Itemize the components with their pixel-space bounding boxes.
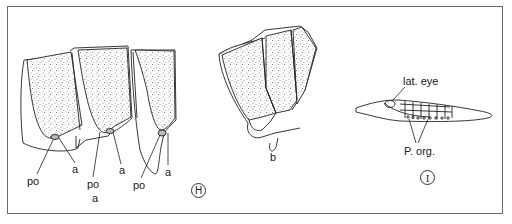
sublabel-b: b: [270, 152, 276, 163]
label-p-org: P. org.: [404, 146, 435, 157]
organism-lateral-view: [356, 100, 492, 122]
panel-label-h: H: [191, 183, 206, 198]
label-a-2: a: [119, 165, 125, 176]
leader-lines-i: [392, 87, 428, 143]
segment-series-b: [219, 26, 317, 151]
label-a-1: a: [72, 164, 78, 175]
label-a-3: a: [165, 167, 171, 178]
sublabel-a: a: [92, 193, 98, 204]
label-po-1: po: [27, 176, 39, 187]
panel-label-i: I: [420, 170, 435, 185]
label-po-3: po: [133, 180, 145, 191]
segment-series-a: [21, 46, 176, 174]
illustration: [0, 0, 512, 224]
label-lat-eye: lat. eye: [403, 76, 438, 87]
label-po-2: po: [87, 179, 99, 190]
